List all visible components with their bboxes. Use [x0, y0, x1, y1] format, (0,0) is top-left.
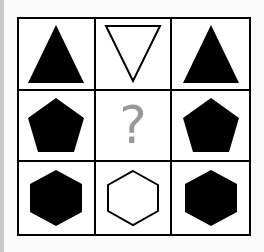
- filled-triangle-up-icon: [181, 23, 241, 85]
- cell-2-1: [19, 91, 96, 163]
- filled-hexagon-icon: [183, 168, 239, 228]
- puzzle-grid: ?: [17, 17, 251, 236]
- cell-1-3: [172, 19, 249, 91]
- filled-triangle-up-icon: [26, 23, 86, 85]
- question-mark: ?: [119, 95, 147, 155]
- cell-1-2: [96, 19, 173, 91]
- cell-1-1: [19, 19, 96, 91]
- left-edge-bar: [0, 0, 4, 252]
- filled-hexagon-icon: [28, 168, 84, 228]
- cell-2-2-missing: ?: [96, 91, 173, 163]
- filled-pentagon-icon: [26, 96, 86, 154]
- outline-hexagon-icon: [105, 168, 161, 228]
- filled-pentagon-icon: [181, 96, 241, 154]
- cell-3-2: [96, 162, 173, 234]
- outline-triangle-down-icon: [103, 23, 163, 85]
- cell-3-1: [19, 162, 96, 234]
- cell-3-3: [172, 162, 249, 234]
- cell-2-3: [172, 91, 249, 163]
